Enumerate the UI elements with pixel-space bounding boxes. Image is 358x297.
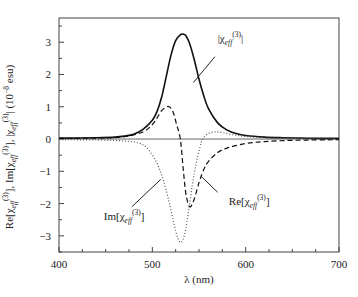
annotation-leader-re (201, 176, 218, 192)
series-group (59, 34, 339, 242)
annotation-leader-im (132, 179, 161, 206)
y-tick-label: −1 (39, 165, 51, 177)
y-tick-label: 1 (46, 101, 52, 113)
chart: 400500600700−3−2−10123 |χeff(3)|Re[χeff(… (0, 0, 358, 297)
x-tick-label: 700 (331, 258, 348, 270)
x-tick-label: 500 (144, 258, 161, 270)
y-tick-label: −2 (39, 198, 51, 210)
series-abs-chi (59, 34, 339, 138)
annotation-label-re: Re[χeff(3)] (229, 193, 270, 210)
plot-frame (59, 18, 339, 252)
y-tick-label: −3 (39, 230, 51, 242)
y-tick-label: 0 (46, 133, 52, 145)
x-tick-label: 400 (51, 258, 68, 270)
series-re-chi (59, 106, 339, 207)
x-axis-label: λ (nm) (184, 273, 214, 286)
x-tick-label: 600 (237, 258, 254, 270)
annotations: |χeff(3)|Re[χeff(3)]Im[χeff(3)] (104, 30, 270, 225)
y-tick-label: 3 (46, 36, 52, 48)
annotation-label-im: Im[χeff(3)] (104, 208, 145, 225)
y-tick-label: 2 (46, 68, 52, 80)
annotation-label-abs: |χeff(3)| (218, 30, 244, 47)
y-axis-label: Re[χeff(3)], Im[χeff(3)], |χeff(3)| (10−… (1, 64, 18, 229)
series-im-chi (59, 132, 339, 243)
